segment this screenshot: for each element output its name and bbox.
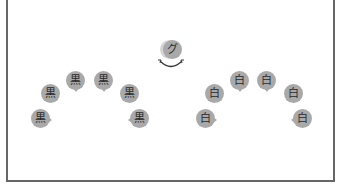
black-bubble: 黒 [41,84,60,103]
black-bubble: 黒 [66,71,85,90]
white-bubble: 白 [257,71,276,90]
white-bubble: 白 [196,109,215,128]
white-bubble: 白 [284,84,303,103]
black-bubble: 黒 [94,71,113,90]
center-speaker-bubble: グ [160,40,182,60]
black-bubble: 黒 [120,84,139,103]
black-bubble: 黒 [130,109,149,128]
white-bubble: 白 [293,109,312,128]
black-bubble: 黒 [31,109,50,128]
white-bubble: 白 [230,71,249,90]
curved-double-arrow-icon [157,58,185,70]
speaker-label: グ [163,40,182,59]
white-bubble: 白 [205,84,224,103]
